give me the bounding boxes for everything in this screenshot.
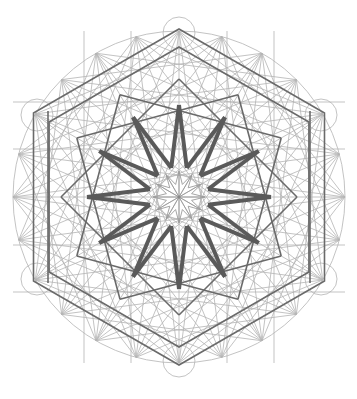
inner-rosette	[153, 171, 205, 223]
star-ray	[179, 226, 187, 289]
star-ray	[87, 189, 150, 197]
star-ray	[87, 197, 150, 205]
star-ray	[179, 105, 187, 168]
star-ray	[171, 105, 179, 168]
geometric-diagram: Islamic geometric construction: 12-fold …	[0, 0, 357, 399]
star-ray	[208, 189, 271, 197]
center-dot	[178, 196, 181, 199]
star-ray	[171, 226, 179, 289]
diagram-canvas	[0, 0, 357, 399]
star-ray	[208, 197, 271, 205]
